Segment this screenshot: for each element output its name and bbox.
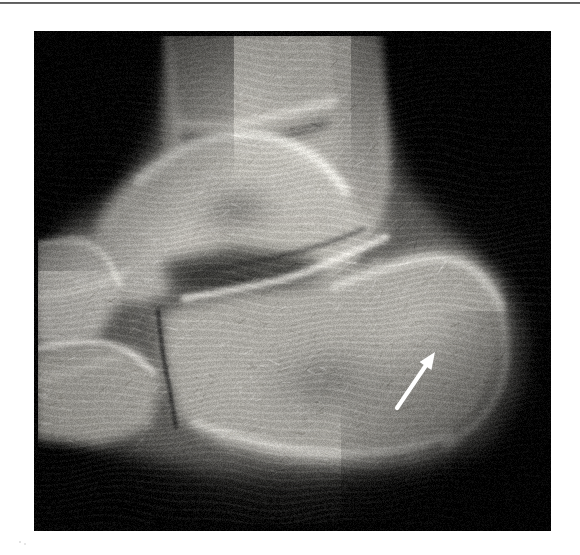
radiograph-image <box>34 31 551 531</box>
page-speckle <box>18 540 28 546</box>
radiograph-canvas <box>34 31 551 531</box>
top-horizontal-rule <box>0 2 580 4</box>
figure-page <box>0 0 580 555</box>
